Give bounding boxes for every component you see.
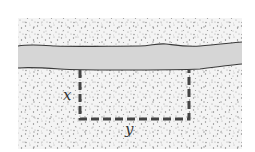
- label-y: y: [124, 120, 134, 138]
- label-x: x: [63, 86, 72, 104]
- river: [18, 42, 242, 70]
- river-fence-diagram: x y: [0, 0, 255, 152]
